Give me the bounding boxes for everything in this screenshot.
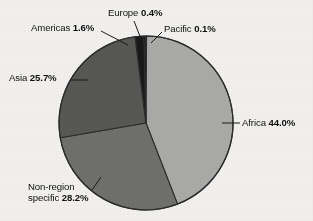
pie-label-asia-value: 25.7% [30, 72, 57, 83]
pie-label-pacific-value: 0.1% [194, 23, 215, 34]
pie-label-non-region-line2: specific [28, 192, 59, 203]
pie-label-africa: Africa 44.0% [242, 117, 295, 128]
pie-label-americas: Americas 1.6% [31, 22, 94, 33]
pie-label-non-region-specific: Non-region specific 28.2% [28, 181, 106, 204]
pie-label-europe-name: Europe [108, 7, 138, 18]
pie-label-pacific-name: Pacific [164, 23, 192, 34]
pie-chart-figure: Europe 0.4% Americas 1.6% Pacific 0.1% A… [0, 0, 313, 221]
pie-label-americas-value: 1.6% [73, 22, 94, 33]
pie-label-asia: Asia 25.7% [9, 72, 57, 83]
pie-label-europe-value: 0.4% [141, 7, 162, 18]
pie-label-europe: Europe 0.4% [108, 7, 162, 18]
pie-label-africa-name: Africa [242, 117, 266, 128]
pie-label-asia-name: Asia [9, 72, 27, 83]
pie-label-non-region-value: 28.2% [62, 192, 89, 203]
pie-slice-asia [59, 37, 146, 138]
pie-label-non-region-line1: Non-region [28, 181, 74, 192]
pie-label-africa-value: 44.0% [269, 117, 296, 128]
pie-label-pacific: Pacific 0.1% [164, 23, 216, 34]
pie-label-americas-name: Americas [31, 22, 70, 33]
